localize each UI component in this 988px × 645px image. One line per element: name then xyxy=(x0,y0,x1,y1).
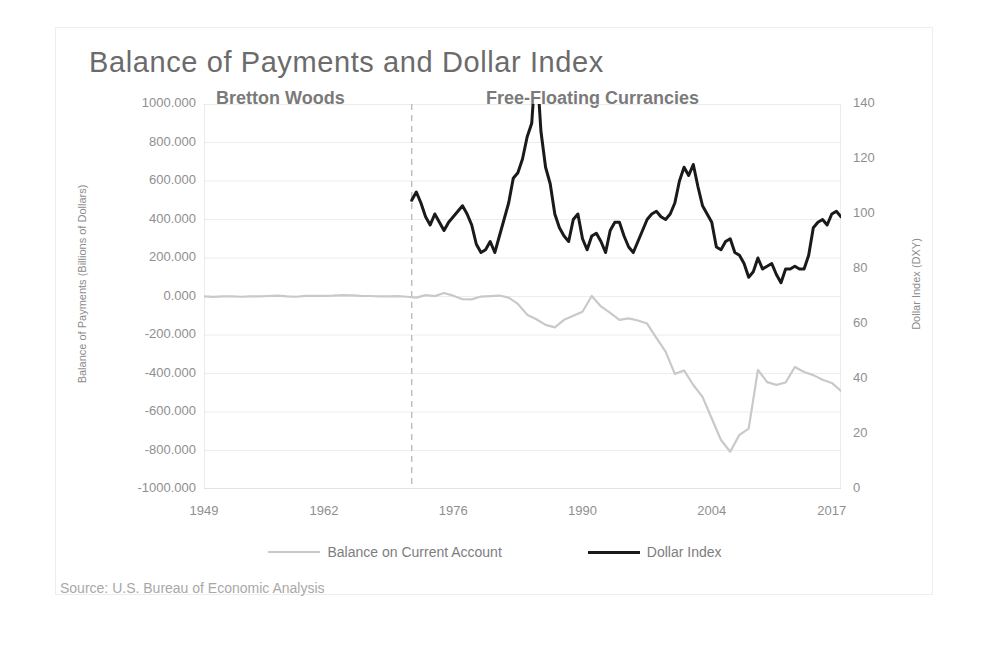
series-line-balance-on-current-account xyxy=(204,293,841,452)
y-axis-left-tick-label: 800.000 xyxy=(110,134,196,149)
legend-item[interactable]: Dollar Index xyxy=(588,544,722,560)
series-line-dollar-index xyxy=(412,104,841,283)
y-axis-right-tick-label: 40 xyxy=(853,370,903,385)
y-axis-left-title: Balance of Payments (Billions of Dollars… xyxy=(76,124,88,444)
y-axis-left-tick-label: -600.000 xyxy=(110,403,196,418)
y-axis-right-tick-label: 120 xyxy=(853,150,903,165)
x-axis-tick-label: 1990 xyxy=(553,503,613,518)
y-axis-right-tick-label: 140 xyxy=(853,95,903,110)
source-note: Source: U.S. Bureau of Economic Analysis xyxy=(60,580,325,596)
y-axis-left-tick-label: -400.000 xyxy=(110,365,196,380)
y-axis-left-tick-label: -1000.000 xyxy=(110,480,196,495)
legend-item[interactable]: Balance on Current Account xyxy=(268,544,501,560)
y-axis-right-tick-label: 0 xyxy=(853,480,903,495)
y-axis-right-tick-label: 80 xyxy=(853,260,903,275)
x-axis-tick-label: 2004 xyxy=(682,503,742,518)
y-axis-left-tick-label: -800.000 xyxy=(110,442,196,457)
page-title: Balance of Payments and Dollar Index xyxy=(89,46,604,79)
y-axis-right-tick-label: 60 xyxy=(853,315,903,330)
y-axis-right-tick-label: 100 xyxy=(853,205,903,220)
y-axis-left-tick-label: -200.000 xyxy=(110,326,196,341)
legend-item-label: Dollar Index xyxy=(647,544,722,560)
y-axis-left-tick-label: 1000.000 xyxy=(110,95,196,110)
plot-area xyxy=(204,104,841,489)
legend-item-label: Balance on Current Account xyxy=(327,544,501,560)
y-axis-left-tick-label: 0.000 xyxy=(110,288,196,303)
x-axis-tick-label: 2017 xyxy=(802,503,862,518)
legend-swatch-dxy-icon xyxy=(588,551,640,554)
y-axis-left-tick-label: 200.000 xyxy=(110,249,196,264)
x-axis-tick-label: 1976 xyxy=(423,503,483,518)
x-axis-tick-label: 1962 xyxy=(294,503,354,518)
y-axis-left-tick-label: 400.000 xyxy=(110,211,196,226)
y-axis-right-title: Dollar Index (DXY) xyxy=(910,124,922,444)
chart-slide: Balance of Payments and Dollar Index Bre… xyxy=(55,27,933,595)
chart-canvas xyxy=(204,104,841,489)
y-axis-right-tick-label: 20 xyxy=(853,425,903,440)
y-axis-left-tick-label: 600.000 xyxy=(110,172,196,187)
chart-legend: Balance on Current AccountDollar Index xyxy=(56,544,934,560)
x-axis-tick-label: 1949 xyxy=(174,503,234,518)
legend-swatch-bop-icon xyxy=(268,551,320,553)
